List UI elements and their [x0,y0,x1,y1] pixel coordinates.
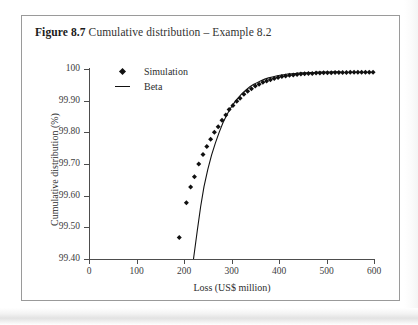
x-tick-mark [232,259,233,264]
y-tick-label: 99.90 [40,95,80,105]
y-tick-label: 100 [40,63,80,73]
chart-legend: Simulation Beta [110,64,188,94]
x-tick-label: 100 [117,266,157,276]
y-tick-label: 99.40 [40,253,80,263]
data-point-marker [212,130,217,135]
data-point-marker [188,185,193,190]
x-tick-label: 600 [354,266,394,276]
legend-label-beta: Beta [134,81,162,92]
x-axis-title: Loss (US$ million) [89,282,375,293]
x-tick-label: 400 [259,266,299,276]
data-point-marker [201,152,206,157]
x-tick-mark [279,259,280,264]
data-point-marker [184,200,189,205]
chart-series-layer [89,69,374,259]
y-tick-label: 99.70 [40,158,80,168]
legend-label-simulation: Simulation [134,66,188,77]
page-root: Figure 8.7 Cumulative distribution – Exa… [0,0,418,325]
x-tick-label: 0 [69,266,109,276]
x-tick-mark [327,259,328,264]
x-tick-mark [184,259,185,264]
x-tick-label: 500 [307,266,347,276]
data-point-marker [177,235,182,240]
legend-item-simulation: Simulation [110,64,188,79]
y-axis-title: Cumulative distribution (%) [49,75,60,265]
x-tick-mark [374,259,375,264]
page-edge-right [404,0,418,325]
data-point-marker [371,70,376,75]
chart-plot: 99.4099.5099.6099.7099.8099.90100 010020… [22,16,401,302]
x-tick-mark [137,259,138,264]
diamond-marker-icon [110,69,134,74]
series-line-beta [194,72,341,259]
x-tick-label: 200 [164,266,204,276]
line-segment-icon [110,86,134,87]
figure-frame: Figure 8.7 Cumulative distribution – Exa… [21,15,400,301]
data-point-marker [192,174,197,179]
page-edge-bottom [0,308,418,325]
y-tick-label: 99.50 [40,221,80,231]
data-point-marker [208,137,213,142]
x-tick-mark [89,259,90,264]
series-points-simulation [177,70,376,240]
x-tick-label: 300 [212,266,252,276]
y-tick-label: 99.80 [40,126,80,136]
data-point-marker [216,124,221,129]
data-point-marker [204,144,209,149]
legend-item-beta: Beta [110,79,188,94]
data-point-marker [196,162,201,167]
y-tick-label: 99.60 [40,190,80,200]
